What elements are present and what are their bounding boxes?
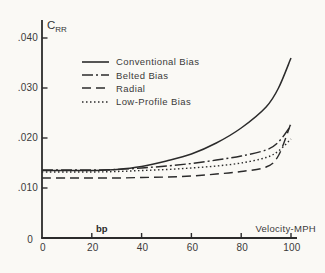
dashdot-line-sample-icon <box>82 72 109 78</box>
legend-label: Radial <box>116 83 145 94</box>
x-tick-label: 100 <box>277 242 307 253</box>
x-tick-label: 40 <box>128 242 158 253</box>
dashed-line-sample-icon <box>82 85 109 91</box>
x-tick-label: 60 <box>177 242 207 253</box>
x-axis-title: Velocity-MPH <box>255 223 316 234</box>
legend-label: Conventional Bias <box>116 56 199 67</box>
y-tick-label: .040 <box>8 32 38 43</box>
solid-line-sample-icon <box>82 59 109 65</box>
legend-label: Belted Bias <box>116 70 168 81</box>
x-tick-label: 20 <box>78 242 108 253</box>
bp-annotation: bp <box>96 223 108 234</box>
x-tick-label: 80 <box>227 242 257 253</box>
y-tick-label: .010 <box>8 182 38 193</box>
series-curve-low-profile-bias <box>42 139 291 172</box>
y-tick-label: .030 <box>8 82 38 93</box>
y-axis-symbol-subscript: RR <box>55 25 67 34</box>
legend: Conventional Bias Belted Bias Radial Low… <box>82 55 199 109</box>
legend-item-low-profile-bias: Low-Profile Bias <box>82 95 199 108</box>
rolling-resistance-figure: CRR Velocity-MPH bp Conventional Bias Be… <box>0 0 325 273</box>
legend-item-conventional-bias: Conventional Bias <box>82 55 199 68</box>
legend-item-belted-bias: Belted Bias <box>82 68 199 81</box>
legend-item-radial: Radial <box>82 82 199 95</box>
x-tick-label: 0 <box>28 242 58 253</box>
y-axis-title: CRR <box>47 19 67 34</box>
y-tick-label: .020 <box>8 132 38 143</box>
dotted-line-sample-icon <box>82 99 109 105</box>
series-curve-belted-bias <box>42 126 291 171</box>
legend-label: Low-Profile Bias <box>116 96 191 107</box>
